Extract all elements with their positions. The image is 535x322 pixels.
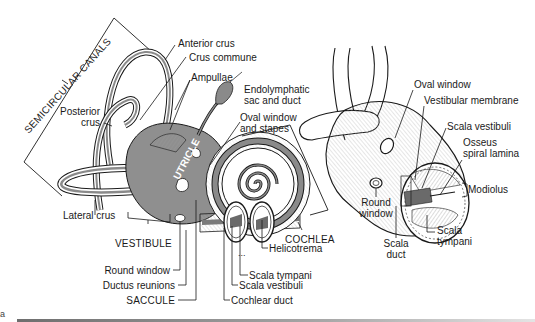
scala-tympani-label-right: Scala tympani bbox=[437, 225, 472, 247]
cochlear-duct-right-line1: Scala bbox=[374, 238, 418, 249]
anterior-crus-label: Anterior crus bbox=[178, 38, 235, 49]
helicotrema-label: Helicotrema bbox=[269, 243, 322, 254]
cochlear-duct-label-right: Scala duct bbox=[374, 238, 418, 260]
figure-part-letter: a bbox=[0, 309, 5, 319]
round-window-right-line2: window bbox=[356, 208, 396, 219]
oval-window-stapes-line1: Oval window bbox=[240, 112, 297, 123]
cochlear-duct-right-line2: duct bbox=[374, 249, 418, 260]
ampullae-label: Ampullae bbox=[191, 72, 233, 83]
oval-window-stapes-label: Oval window and stapes bbox=[240, 112, 297, 134]
round-window-label-right: Round window bbox=[356, 197, 396, 219]
osseus-line1: Osseus bbox=[463, 137, 519, 148]
svg-text:...: ... bbox=[238, 248, 246, 258]
modiolus-label: Modiolus bbox=[468, 184, 508, 195]
lateral-crus-label: Lateral crus bbox=[63, 210, 115, 221]
scala-tympani-right-line2: tympani bbox=[437, 236, 472, 247]
endolymphatic-line2: sac and duct bbox=[244, 95, 310, 106]
round-window-right-line1: Round bbox=[356, 197, 396, 208]
oval-window-label-right: Oval window bbox=[414, 79, 471, 90]
endolymphatic-line1: Endolymphatic bbox=[244, 84, 310, 95]
vestibular-membrane-label: Vestibular membrane bbox=[424, 95, 519, 106]
endolymphatic-label: Endolymphatic sac and duct bbox=[244, 84, 310, 106]
vestibule-label: VESTIBULE bbox=[115, 238, 172, 249]
scala-vestibuli-label-left: Scala vestibuli bbox=[239, 280, 303, 291]
scala-tympani-right-line1: Scala bbox=[437, 225, 472, 236]
crus-commune-label: Crus commune bbox=[189, 52, 257, 63]
osseus-line2: spiral lamina bbox=[463, 148, 519, 159]
posterior-crus-line2: crus bbox=[52, 117, 100, 128]
scala-vestibuli-label-right: Scala vestibuli bbox=[447, 121, 511, 132]
oval-window-stapes-line2: and stapes bbox=[240, 123, 297, 134]
osseus-spiral-lamina-label: Osseus spiral lamina bbox=[463, 137, 519, 159]
round-window-label: Round window bbox=[80, 265, 170, 276]
saccule-label: SACCULE bbox=[100, 295, 175, 306]
posterior-crus-label: Posterior crus bbox=[52, 106, 100, 128]
ductus-reunions-label: Ductus reunions bbox=[80, 280, 175, 291]
inner-ear-diagram: ... bbox=[0, 0, 535, 322]
cochlear-duct-label-left: Cochlear duct bbox=[231, 295, 293, 306]
posterior-crus-line1: Posterior bbox=[52, 106, 100, 117]
